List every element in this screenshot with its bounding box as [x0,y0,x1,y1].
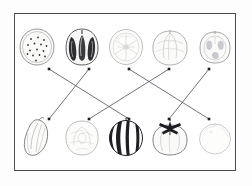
whole-cabbage-icon [62,117,102,159]
top-item-orange-slice[interactable] [104,24,148,70]
bottom-item-whole-tomato[interactable] [148,115,192,161]
whole-watermelon-icon [106,117,146,159]
whole-pepper-icon [19,116,55,160]
cabbage-cross-section-icon [149,26,191,68]
bottom-produce-row [15,115,237,161]
bottom-item-whole-watermelon[interactable] [104,115,148,161]
tomato-cross-section-icon [196,27,234,67]
worksheet-canvas [0,0,252,186]
link-4[interactable] [89,69,169,119]
top-item-kiwi-slice[interactable] [15,24,59,70]
top-item-tomato-cross-section[interactable] [193,24,237,70]
bottom-item-whole-pepper[interactable] [15,115,59,161]
pepper-cross-section-icon [63,26,101,68]
kiwi-slice-icon [17,26,57,68]
orange-slice-icon [106,26,146,68]
top-item-cabbage-cross-section[interactable] [148,24,192,70]
link-2[interactable] [49,69,89,119]
worksheet-frame [14,13,236,171]
top-produce-row [15,24,237,70]
top-item-pepper-cross-section[interactable] [59,24,103,70]
link-5[interactable] [169,69,209,119]
bottom-item-whole-cabbage[interactable] [59,115,103,161]
whole-orange-icon [196,119,234,157]
bottom-item-whole-orange[interactable] [193,115,237,161]
link-3[interactable] [129,69,209,119]
link-1[interactable] [49,69,129,119]
whole-tomato-icon [149,118,191,158]
